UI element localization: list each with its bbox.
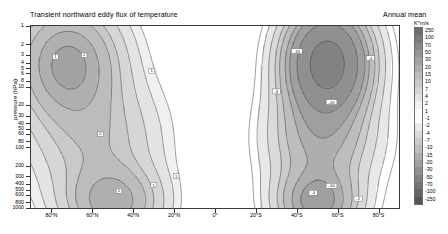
colorbar-tick-label: 15 xyxy=(425,72,431,77)
y-tick-label: 1 xyxy=(2,23,24,28)
figure-root: Transient northward eddy flux of tempera… xyxy=(0,0,448,234)
x-tick-mark xyxy=(51,209,52,213)
x-tick-mark xyxy=(92,209,93,213)
figure-title: Transient northward eddy flux of tempera… xyxy=(30,10,178,19)
colorbar-segment xyxy=(415,131,422,138)
colorbar-segment xyxy=(415,138,422,145)
contour-label-text: -2 xyxy=(356,196,360,201)
colorbar-tick-label: 70 xyxy=(425,43,431,48)
y-tick-label: 6 xyxy=(2,71,24,76)
colorbar-segment xyxy=(415,109,422,116)
colorbar-segment xyxy=(415,153,422,160)
colorbar-segment xyxy=(415,189,422,196)
colorbar-segment xyxy=(415,65,422,72)
colorbar-tick-label: -100 xyxy=(425,189,435,194)
colorbar-segment xyxy=(415,197,422,204)
y-tick-label: 3 xyxy=(2,52,24,57)
colorbar-segment xyxy=(415,123,422,130)
colorbar-segment xyxy=(415,101,422,108)
colorbar-tick-label: -2 xyxy=(425,123,430,128)
y-tick-label: 20 xyxy=(2,102,24,107)
colorbar xyxy=(414,27,423,205)
y-tick-label: 200 xyxy=(2,163,24,168)
colorbar-tick-label: 20 xyxy=(425,65,431,70)
colorbar-tick-label: 250 xyxy=(425,28,434,33)
contour-label-text: -15 xyxy=(294,49,301,54)
colorbar-segment xyxy=(415,72,422,79)
y-tick-label: 60 xyxy=(2,131,24,136)
contour-label-text: -4 xyxy=(311,190,315,195)
colorbar-tick-label: -7 xyxy=(425,138,430,143)
colorbar-tick-label: 1 xyxy=(425,109,428,114)
contour-plot-area: 1212211-15-20-4-4-4-10-2 xyxy=(30,25,400,209)
colorbar-segment xyxy=(415,167,422,174)
y-tick-label: 1000 xyxy=(2,205,24,210)
contour-label-text: -4 xyxy=(369,56,373,61)
colorbar-tick-label: 50 xyxy=(425,50,431,55)
y-tick-label: 300 xyxy=(2,174,24,179)
x-tick-mark xyxy=(256,209,257,213)
colorbar-segment xyxy=(415,116,422,123)
colorbar-segment xyxy=(415,87,422,94)
colorbar-segment xyxy=(415,43,422,50)
colorbar-segment xyxy=(415,57,422,64)
colorbar-tick-label: -20 xyxy=(425,160,433,165)
contour-field: 1212211-15-20-4-4-4-10-2 xyxy=(31,26,399,208)
colorbar-tick-label: 30 xyxy=(425,57,431,62)
contour-label-text: -10 xyxy=(328,183,335,188)
y-tick-label: 2 xyxy=(2,42,24,47)
colorbar-tick-label: 2 xyxy=(425,101,428,106)
colorbar-tick-label: 4 xyxy=(425,94,428,99)
y-tick-label: 10 xyxy=(2,84,24,89)
colorbar-tick-label: -10 xyxy=(425,145,433,150)
x-tick-mark xyxy=(174,209,175,213)
x-tick-mark xyxy=(338,209,339,213)
x-tick-mark xyxy=(379,209,380,213)
x-tick-mark xyxy=(133,209,134,213)
contour-label-text: -4 xyxy=(274,89,278,94)
colorbar-segment xyxy=(415,28,422,35)
colorbar-segment xyxy=(415,79,422,86)
colorbar-tick-label: -15 xyxy=(425,153,433,158)
colorbar-tick-label: 100 xyxy=(425,35,434,40)
y-tick-label: 100 xyxy=(2,145,24,150)
colorbar-segment xyxy=(415,145,422,152)
colorbar-tick-label: -30 xyxy=(425,167,433,172)
x-tick-mark xyxy=(215,209,216,213)
colorbar-unit-label: K*m/s xyxy=(414,20,429,26)
y-tick-label: 600 xyxy=(2,192,24,197)
colorbar-tick-label: -50 xyxy=(425,175,433,180)
colorbar-tick-label: 10 xyxy=(425,79,431,84)
colorbar-segment xyxy=(415,94,422,101)
colorbar-segment xyxy=(415,175,422,182)
colorbar-segment xyxy=(415,35,422,42)
colorbar-segment xyxy=(415,160,422,167)
colorbar-segment xyxy=(415,182,422,189)
y-tick-label: 30 xyxy=(2,113,24,118)
colorbar-tick-label: -1 xyxy=(425,116,430,121)
colorbar-tick-label: -70 xyxy=(425,182,433,187)
colorbar-tick-label: -250 xyxy=(425,197,435,202)
colorbar-tick-label: 7 xyxy=(425,87,428,92)
x-tick-mark xyxy=(297,209,298,213)
colorbar-segment xyxy=(415,50,422,57)
figure-subtitle: Annual mean xyxy=(383,10,426,19)
contour-label-text: -20 xyxy=(328,100,335,105)
colorbar-tick-label: -4 xyxy=(425,131,430,136)
